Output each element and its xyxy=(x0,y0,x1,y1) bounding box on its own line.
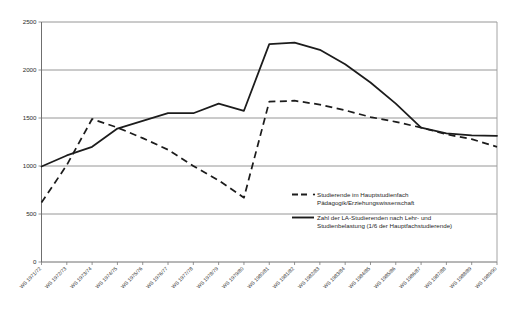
y-tick-label-1500: 1500 xyxy=(23,114,37,121)
y-tick-label-2000: 2000 xyxy=(23,66,37,73)
legend-entry-0-line1: Studierende im Hauptstudienfach xyxy=(317,191,409,198)
legend-entry-0-line2: Pädagogik/Erziehungswissenschaft xyxy=(317,199,415,206)
y-tick-label-500: 500 xyxy=(26,210,37,217)
line-chart: 05001000150020002500 WS 1971/72WS 1972/7… xyxy=(0,0,520,313)
legend-entry-1-line2: Studienbelastung (1/6 der Hauptfachstudi… xyxy=(317,222,452,229)
y-tick-label-0: 0 xyxy=(33,258,37,265)
legend-bullet-icon xyxy=(313,193,315,195)
y-tick-label-2500: 2500 xyxy=(23,18,37,25)
chart-container: 05001000150020002500 WS 1971/72WS 1972/7… xyxy=(0,0,520,313)
legend-entry-1-line1: Zahl der LA-Studierenden nach Lehr- und xyxy=(317,214,432,221)
y-tick-label-1000: 1000 xyxy=(23,162,37,169)
